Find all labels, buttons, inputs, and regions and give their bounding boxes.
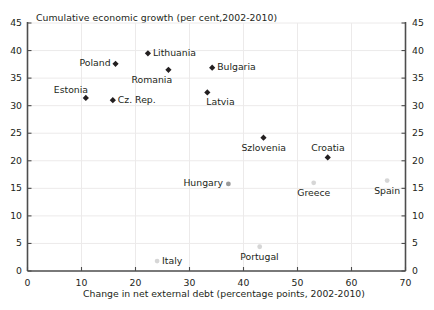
data-point-marker (110, 97, 116, 103)
y-axis-tick-left: 5 (0, 237, 22, 248)
x-axis-tick: 0 (14, 277, 42, 288)
y-axis-tick-right: 20 (412, 155, 424, 166)
point-label-romania: Romania (131, 74, 172, 85)
x-axis-tick: 50 (284, 277, 312, 288)
data-point-marker (325, 154, 331, 160)
y-axis-tick-left: 35 (0, 72, 22, 83)
y-axis-tick-left: 20 (0, 155, 22, 166)
y-axis-tick-right: 10 (412, 210, 424, 221)
point-label-spain: Spain (374, 185, 400, 196)
data-point-marker (260, 135, 266, 141)
x-axis-tick: 20 (122, 277, 150, 288)
scatter-chart: Cumulative economic growth (per cent,200… (0, 0, 434, 310)
x-axis-tick: 70 (392, 277, 420, 288)
x-axis-tick: 40 (230, 277, 258, 288)
y-axis-tick-right: 25 (412, 127, 424, 138)
y-axis-tick-right: 35 (412, 72, 424, 83)
x-axis-tick: 60 (338, 277, 366, 288)
point-label-latvia: Latvia (206, 96, 234, 107)
y-axis-tick-right: 15 (412, 182, 424, 193)
data-point-marker (165, 67, 171, 73)
y-axis-tick-right: 30 (412, 100, 424, 111)
data-point-marker (83, 95, 89, 101)
x-axis-label: Change in net external debt (percentage … (0, 288, 434, 299)
data-point-marker (385, 178, 390, 183)
data-point-marker (112, 61, 118, 67)
point-label-hungary: Hungary (183, 177, 223, 188)
data-point-marker (145, 50, 151, 56)
point-label-greece: Greece (297, 187, 330, 198)
y-axis-tick-left: 30 (0, 100, 22, 111)
data-point-marker (204, 89, 210, 95)
data-markers (83, 50, 390, 263)
data-point-marker (155, 259, 160, 264)
x-axis-tick: 10 (68, 277, 96, 288)
data-point-marker (311, 180, 316, 185)
y-axis-tick-left: 40 (0, 45, 22, 56)
point-label-poland: Poland (80, 57, 111, 68)
plot-area (0, 0, 434, 310)
point-label-croatia: Croatia (311, 142, 344, 153)
y-axis-tick-right: 0 (412, 265, 418, 276)
data-point-marker (226, 182, 231, 187)
x-axis-tick: 30 (176, 277, 204, 288)
y-axis-tick-left: 15 (0, 182, 22, 193)
point-label-italy: Italy (162, 255, 182, 266)
y-axis-tick-left: 45 (0, 17, 22, 28)
point-label-estonia: Estonia (54, 84, 88, 95)
point-label-cz-rep: Cz. Rep. (118, 94, 156, 105)
y-axis-tick-left: 25 (0, 127, 22, 138)
point-label-bulgaria: Bulgaria (217, 61, 256, 72)
point-label-szlovenia: Szlovenia (241, 142, 285, 153)
y-axis-tick-right: 40 (412, 45, 424, 56)
y-axis-tick-right: 45 (412, 17, 424, 28)
data-point-marker (257, 244, 262, 249)
y-axis-tick-left: 10 (0, 210, 22, 221)
point-label-lithuania: Lithuania (153, 47, 196, 58)
y-axis-tick-left: 0 (0, 265, 22, 276)
data-point-marker (209, 65, 215, 71)
y-axis-tick-right: 5 (412, 237, 418, 248)
point-label-portugal: Portugal (240, 251, 279, 262)
